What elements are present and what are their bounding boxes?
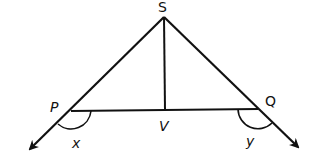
diagram-svg: S P Q V x y [0, 0, 316, 156]
segment-sv [164, 17, 165, 110]
segment-pq [71, 109, 258, 111]
ray-sq [164, 17, 298, 147]
triangle-diagram: S P Q V x y [0, 0, 316, 156]
label-angle-x: x [71, 135, 81, 151]
label-s: S [158, 0, 167, 15]
label-q: Q [265, 93, 276, 109]
angle-arc-x [58, 111, 91, 129]
label-v: V [159, 118, 170, 134]
label-p: P [50, 99, 59, 115]
ray-sp [30, 17, 164, 149]
label-angle-y: y [245, 133, 255, 149]
angle-arc-y [238, 109, 272, 129]
